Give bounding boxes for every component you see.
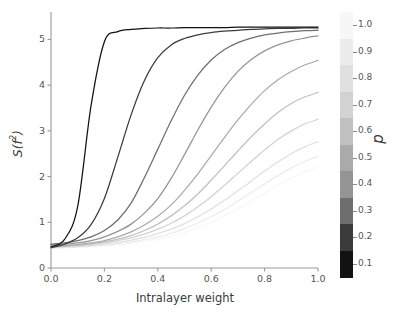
colorbar-tick-label: 0.4 bbox=[358, 178, 372, 188]
data-curve bbox=[51, 119, 318, 247]
colorbar-tick-label: 1.0 bbox=[358, 19, 372, 29]
y-axis-tick-label: 2 bbox=[25, 171, 45, 182]
y-axis-tick-label: 4 bbox=[25, 79, 45, 90]
x-axis-tick-label: 1.0 bbox=[306, 273, 330, 284]
colorbar-tick bbox=[353, 211, 357, 212]
colorbar-tick-label: 0.3 bbox=[358, 205, 372, 215]
y-axis-title-superscript: 2 bbox=[9, 135, 18, 140]
colorbar-swatch bbox=[340, 251, 353, 278]
colorbar-tick bbox=[353, 78, 357, 79]
figure-container: 0.00.20.40.60.81.0 012345 Intralayer wei… bbox=[0, 0, 400, 315]
colorbar-tick-label: 0.2 bbox=[358, 231, 372, 241]
y-axis-title-main: S(f bbox=[10, 140, 25, 157]
colorbar-swatch bbox=[340, 224, 353, 251]
data-curve bbox=[51, 142, 318, 248]
colorbar-title: p bbox=[369, 134, 387, 144]
colorbar-swatch bbox=[340, 198, 353, 225]
colorbar-tick bbox=[353, 25, 357, 26]
data-curve bbox=[51, 36, 318, 245]
y-axis-tick-label: 3 bbox=[25, 125, 45, 136]
y-axis-title-close: ) bbox=[10, 130, 25, 135]
data-curve bbox=[51, 28, 318, 248]
x-axis-tick-label: 0.6 bbox=[199, 273, 223, 284]
y-axis-title: S(f2) bbox=[9, 114, 24, 174]
colorbar-tick-label: 0.9 bbox=[358, 46, 372, 56]
colorbar-tick bbox=[353, 184, 357, 185]
colorbar-tick bbox=[353, 264, 357, 265]
data-curve bbox=[51, 30, 318, 244]
y-axis-title-wrapper: S(f2) bbox=[6, 118, 28, 178]
colorbar-swatch bbox=[340, 92, 353, 119]
data-curve bbox=[51, 27, 318, 247]
data-curve bbox=[51, 167, 318, 248]
data-curve bbox=[51, 156, 318, 247]
colorbar-swatch bbox=[340, 118, 353, 145]
x-axis-tick-label: 0.4 bbox=[146, 273, 170, 284]
colorbar-tick-label: 0.7 bbox=[358, 99, 372, 109]
colorbar-tick bbox=[353, 131, 357, 132]
y-axis-tick-label: 5 bbox=[25, 33, 45, 44]
x-axis-title: Intralayer weight bbox=[0, 291, 370, 305]
x-axis-tick-label: 0.0 bbox=[39, 273, 63, 284]
x-axis-tick-label: 0.2 bbox=[92, 273, 116, 284]
colorbar-swatch bbox=[340, 171, 353, 198]
data-curve bbox=[51, 60, 318, 246]
colorbar-tick bbox=[353, 105, 357, 106]
colorbar-swatch bbox=[340, 145, 353, 172]
colorbar-tick-label: 0.5 bbox=[358, 152, 372, 162]
colorbar-swatch bbox=[340, 65, 353, 92]
colorbar-swatch bbox=[340, 12, 353, 39]
y-axis-tick-label: 0 bbox=[25, 262, 45, 273]
colorbar-tick bbox=[353, 158, 357, 159]
x-axis-tick-label: 0.8 bbox=[253, 273, 277, 284]
colorbar-tick-label: 0.8 bbox=[358, 72, 372, 82]
y-axis-tick-label: 1 bbox=[25, 216, 45, 227]
colorbar-tick bbox=[353, 237, 357, 238]
colorbar-tick bbox=[353, 52, 357, 53]
colorbar-tick-label: 0.1 bbox=[358, 258, 372, 268]
colorbar-swatch bbox=[340, 39, 353, 66]
data-curves bbox=[51, 27, 318, 248]
